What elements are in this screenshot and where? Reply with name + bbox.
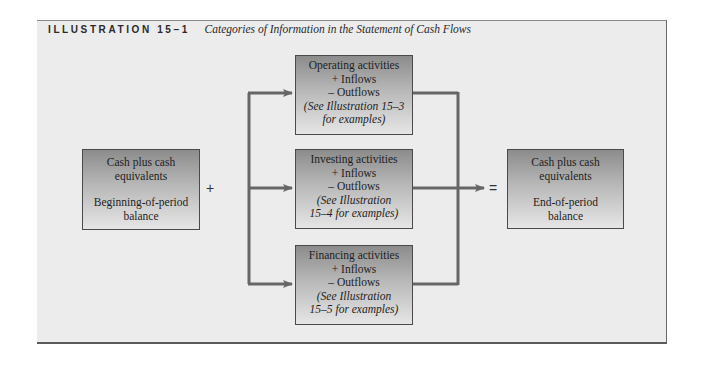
activity-note: for examples) bbox=[296, 113, 412, 127]
activity-inflows: + Inflows bbox=[296, 263, 412, 277]
activity-note: 15–4 for examples) bbox=[296, 207, 412, 221]
investing-activities-box: Investing activities + Inflows – Outflow… bbox=[295, 149, 413, 229]
box-text: equivalents bbox=[508, 170, 623, 184]
box-text: Cash plus cash bbox=[83, 156, 199, 170]
beginning-balance-box: Cash plus cash equivalents Beginning-of-… bbox=[82, 149, 200, 230]
activity-inflows: + Inflows bbox=[296, 73, 412, 87]
activity-outflows: – Outflows bbox=[296, 86, 412, 100]
activity-note: (See Illustration bbox=[296, 290, 412, 304]
activity-note: (See Illustration bbox=[296, 194, 412, 208]
activity-note: 15–5 for examples) bbox=[296, 303, 412, 317]
box-text: balance bbox=[508, 210, 623, 224]
activity-title: Financing activities bbox=[296, 249, 412, 263]
box-text: balance bbox=[83, 210, 199, 224]
box-text: Beginning-of-period bbox=[83, 196, 199, 210]
equals-sign: = bbox=[489, 180, 497, 196]
financing-activities-box: Financing activities + Inflows – Outflow… bbox=[295, 245, 413, 325]
activity-note: (See Illustration 15–3 bbox=[296, 100, 412, 114]
activity-outflows: – Outflows bbox=[296, 276, 412, 290]
ending-balance-box: Cash plus cash equivalents End-of-period… bbox=[507, 149, 624, 229]
activity-outflows: – Outflows bbox=[296, 180, 412, 194]
activity-title: Operating activities bbox=[296, 59, 412, 73]
operating-activities-box: Operating activities + Inflows – Outflow… bbox=[295, 55, 413, 135]
box-text: End-of-period bbox=[508, 196, 623, 210]
box-text: equivalents bbox=[83, 170, 199, 184]
box-text: Cash plus cash bbox=[508, 156, 623, 170]
plus-sign: + bbox=[206, 180, 214, 196]
activity-title: Investing activities bbox=[296, 153, 412, 167]
activity-inflows: + Inflows bbox=[296, 167, 412, 181]
